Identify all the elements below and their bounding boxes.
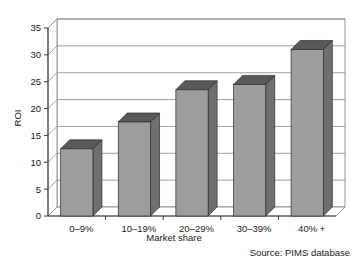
y-axis-tick-label: 5 [36,184,41,195]
bar-front-face [61,149,93,216]
y-axis-tick-label: 20 [30,103,41,114]
chart-canvas: 05101520253035 0–9%10–19%20–29%30–39%40%… [0,0,356,266]
y-axis-title: ROI [12,110,23,127]
bar [61,140,102,216]
y-axis-tick-label: 35 [30,22,41,33]
bar-side-face [266,75,275,216]
bar [176,81,217,216]
bar-side-face [208,81,217,216]
bar [291,40,332,216]
y-axis-tick-label: 0 [36,210,41,221]
bar-side-face [323,40,332,216]
bar-front-face [291,49,323,216]
y-axis-tick-label: 30 [30,49,41,60]
y-axis-tick-label: 15 [30,130,41,141]
y-axis-tick-label: 10 [30,157,41,168]
bar [233,75,274,216]
x-axis-ticks [106,216,279,220]
left-wall-plane [48,19,57,216]
bar-side-face [93,140,102,216]
bar-front-face [233,84,265,216]
roi-market-share-chart: 05101520253035 0–9%10–19%20–29%30–39%40%… [0,0,356,266]
x-axis-category-label: 0–9% [69,223,94,234]
bar-front-face [118,122,150,216]
x-axis-category-label: 40% + [298,223,326,234]
x-axis-category-label: 30–39% [237,223,272,234]
bar-side-face [151,113,160,216]
bar-front-face [176,90,208,216]
y-axis-tick-label: 25 [30,76,41,87]
source-note: Source: PIMS database [250,247,350,258]
bar [118,113,159,216]
x-axis-title: Market share [146,232,201,243]
